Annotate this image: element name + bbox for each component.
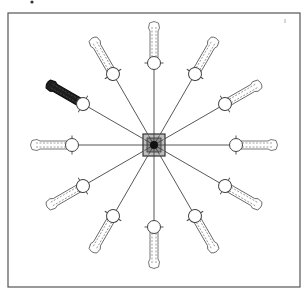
- top-mark: [30, 0, 33, 3]
- hub: [143, 134, 165, 156]
- arm-body: [240, 140, 278, 151]
- hub-core: [150, 141, 158, 149]
- arm-body: [149, 22, 160, 60]
- arm-body: [149, 231, 160, 269]
- joint-circle-icon: [148, 57, 161, 70]
- joint-circle-icon: [230, 139, 243, 152]
- arm-body: [31, 140, 69, 151]
- radial-diagram: [0, 0, 305, 293]
- joint-circle-icon: [148, 221, 161, 234]
- joint-circle-icon: [66, 139, 79, 152]
